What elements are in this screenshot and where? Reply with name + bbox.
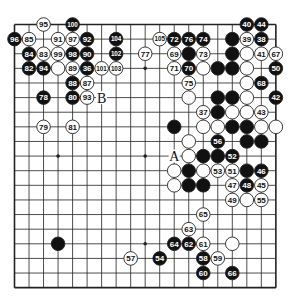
white-stone: 81 [66, 120, 80, 134]
move-number: 78 [39, 93, 48, 102]
stone-circle-icon [196, 62, 210, 76]
stone-circle-icon [182, 91, 196, 105]
white-stone: 87 [80, 76, 94, 90]
stone-circle-icon [240, 120, 254, 134]
move-number: 104 [111, 35, 122, 42]
move-number: 42 [271, 93, 280, 102]
stone-circle-icon [226, 62, 240, 76]
move-number: 105 [154, 35, 165, 42]
move-number: 75 [184, 79, 193, 88]
black-stone: 46 [255, 164, 269, 178]
move-number: 36 [83, 64, 92, 73]
black-stone: 68 [255, 76, 269, 90]
white-stone: 51 [226, 164, 240, 178]
white-stone [196, 62, 210, 76]
black-stone: 98 [66, 47, 80, 61]
move-number: 93 [83, 93, 92, 102]
black-stone: 48 [240, 179, 254, 193]
move-number: 72 [170, 35, 179, 44]
white-stone: 61 [196, 237, 210, 251]
black-stone: 84 [22, 47, 36, 61]
white-stone [182, 91, 196, 105]
black-stone: 36 [80, 62, 94, 76]
black-stone: 70 [182, 62, 196, 76]
move-number: 92 [83, 35, 92, 44]
move-number: 98 [68, 50, 77, 59]
white-stone: 105 [153, 32, 167, 46]
white-stone [196, 164, 210, 178]
white-stone: 37 [196, 105, 210, 119]
white-stone: 77 [138, 47, 152, 61]
black-stone: 64 [167, 237, 181, 251]
move-number: 77 [141, 50, 150, 59]
white-stone: 73 [196, 47, 210, 61]
stone-circle-icon [226, 32, 240, 46]
black-stone [255, 135, 269, 149]
move-number: 99 [54, 50, 63, 59]
stone-circle-icon [240, 62, 254, 76]
move-number: 66 [228, 269, 237, 278]
move-number: 51 [228, 167, 237, 176]
stone-circle-icon [182, 149, 196, 163]
move-number: 41 [257, 50, 266, 59]
stone-circle-icon [240, 135, 254, 149]
black-stone: 78 [37, 91, 51, 105]
white-stone: 95 [37, 18, 51, 32]
white-stone [240, 47, 254, 61]
black-stone: 92 [80, 32, 94, 46]
stone-circle-icon [240, 91, 254, 105]
black-stone [226, 62, 240, 76]
white-stone: 65 [196, 208, 210, 222]
move-number: 47 [228, 181, 237, 190]
star-point-icon [143, 154, 147, 158]
stone-circle-icon [226, 120, 240, 134]
go-board-diagram: AB 9510040449685919792104105727674393884… [0, 0, 291, 302]
stone-circle-icon [211, 120, 225, 134]
black-stone: 56 [211, 135, 225, 149]
black-stone: 62 [182, 237, 196, 251]
point-label-b: B [97, 91, 106, 106]
move-number: 69 [170, 50, 179, 59]
stone-circle-icon [196, 120, 210, 134]
white-stone: 103 [109, 62, 123, 76]
move-number: 50 [271, 64, 280, 73]
black-stone [240, 164, 254, 178]
move-number: 100 [67, 21, 78, 28]
move-number: 65 [199, 210, 208, 219]
stone-circle-icon [226, 237, 240, 251]
white-stone [269, 120, 283, 134]
move-number: 56 [213, 137, 222, 146]
move-number: 76 [184, 35, 193, 44]
white-stone: 99 [51, 47, 65, 61]
stone-circle-icon [226, 47, 240, 61]
move-number: 101 [96, 65, 107, 72]
stone-circle-icon [211, 62, 225, 76]
black-stone [211, 105, 225, 119]
white-stone: 91 [51, 32, 65, 46]
black-stone: 76 [182, 32, 196, 46]
white-stone [240, 91, 254, 105]
stone-circle-icon [240, 105, 254, 119]
black-stone [211, 91, 225, 105]
white-stone [211, 120, 225, 134]
point-label-a: A [169, 149, 180, 164]
black-stone: 50 [269, 62, 283, 76]
white-stone: 85 [22, 32, 36, 46]
black-stone: 100 [66, 18, 80, 32]
black-stone [51, 237, 65, 251]
stone-circle-icon [226, 91, 240, 105]
move-number: 57 [126, 254, 135, 263]
move-number: 81 [68, 123, 77, 132]
move-number: 73 [199, 50, 208, 59]
white-stone: 67 [269, 47, 283, 61]
white-stone: 93 [80, 91, 94, 105]
white-stone [167, 164, 181, 178]
black-stone [196, 149, 210, 163]
black-stone [182, 179, 196, 193]
black-stone: 88 [66, 76, 80, 90]
move-number: 62 [184, 240, 193, 249]
move-number: 58 [199, 254, 208, 263]
black-stone: 52 [226, 149, 240, 163]
stone-circle-icon [240, 193, 254, 207]
white-stone [226, 237, 240, 251]
